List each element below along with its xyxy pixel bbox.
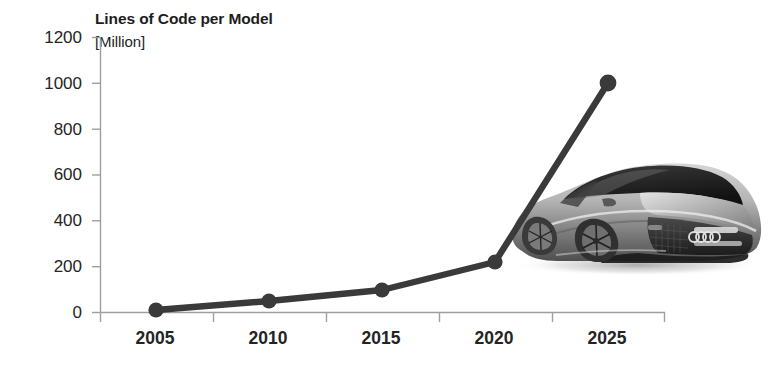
data-point-2010 [261, 293, 276, 308]
data-point-2005 [148, 302, 163, 317]
y-axis-ticks [92, 38, 100, 313]
chart-page: Lines of Code per Model [Million] 1200 1… [0, 0, 784, 379]
chart-plot [0, 0, 784, 379]
data-point-2015 [374, 282, 389, 297]
data-point-2025 [600, 75, 617, 92]
data-point-2020 [487, 254, 502, 269]
series-markers [148, 75, 616, 318]
series-line [156, 83, 608, 310]
x-axis-ticks [101, 312, 665, 322]
